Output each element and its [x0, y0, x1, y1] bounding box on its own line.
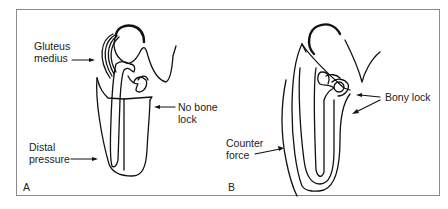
panel-b-drawing: [282, 24, 380, 196]
label-distal-line2: pressure: [29, 153, 70, 165]
label-bony-lock: Bony lock: [385, 91, 431, 103]
label-counter-force: Counter force: [226, 137, 263, 161]
panel-a-drawing: [97, 25, 176, 176]
panel-letter-a: A: [23, 181, 30, 193]
label-gluteus-line1: Gluteus: [34, 40, 70, 52]
label-gluteus-line2: medius: [34, 52, 70, 64]
label-no-bone-line2: lock: [178, 113, 218, 125]
label-counter-line2: force: [226, 149, 263, 161]
panel-letter-b: B: [228, 181, 235, 193]
arrow-bony-lock-lower: [356, 100, 380, 112]
label-distal-pressure: Distal pressure: [29, 141, 70, 165]
label-no-bone-line1: No bone: [178, 101, 218, 113]
anatomy-drawing: [0, 0, 448, 209]
arrow-bony-lock-upper: [360, 95, 380, 97]
label-no-bone-lock: No bone lock: [178, 101, 218, 125]
label-gluteus-medius: Gluteus medius: [34, 40, 70, 64]
label-distal-line1: Distal: [29, 141, 70, 153]
label-counter-line1: Counter: [226, 137, 263, 149]
